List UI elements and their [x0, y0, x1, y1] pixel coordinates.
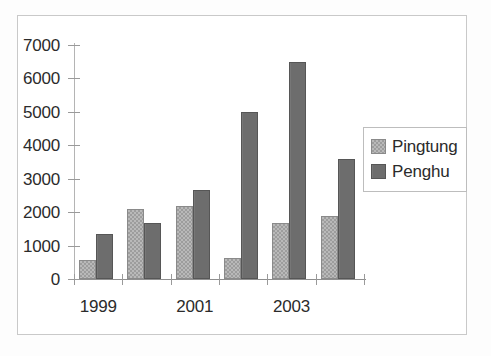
bar-group: [219, 45, 267, 279]
bar-group: [316, 45, 364, 279]
legend-item-penghu[interactable]: Penghu: [371, 159, 459, 184]
bar-pingtung-2000[interactable]: [127, 209, 144, 279]
bar-penghu-2002[interactable]: [241, 112, 258, 279]
y-axis-tick-label: 2000: [0, 204, 60, 221]
bar-pingtung-2003[interactable]: [272, 223, 289, 279]
bar-group: [74, 45, 122, 279]
x-axis-tick-label: 2001: [155, 298, 235, 315]
y-axis-tick-label: 5000: [0, 104, 60, 121]
x-axis-line: [74, 279, 366, 280]
y-axis-tick-label: 7000: [0, 37, 60, 54]
bar-pingtung-2002[interactable]: [224, 258, 241, 279]
bar-penghu-1999[interactable]: [96, 234, 113, 279]
bar-group: [267, 45, 315, 279]
chart-frame: 01000200030004000500060007000 1999200120…: [17, 15, 467, 335]
x-axis-tick-label: 2003: [252, 298, 332, 315]
y-axis-tick-label: 3000: [0, 171, 60, 188]
bar-penghu-2000[interactable]: [144, 223, 161, 279]
bar-group: [122, 45, 170, 279]
bar-pingtung-2004[interactable]: [321, 216, 338, 279]
y-axis-tick-label: 4000: [0, 137, 60, 154]
y-axis-tick-label: 1000: [0, 238, 60, 255]
x-axis-tick: [364, 274, 365, 285]
x-axis-tick-label: 1999: [58, 298, 138, 315]
legend-swatch-icon-pingtung: [371, 139, 386, 154]
bar-pingtung-2001[interactable]: [176, 206, 193, 279]
plot-area: [74, 45, 364, 279]
legend-swatch-icon-penghu: [371, 164, 386, 179]
legend-label-penghu: Penghu: [392, 163, 449, 180]
bar-penghu-2003[interactable]: [289, 62, 306, 279]
legend-label-pingtung: Pingtung: [392, 138, 458, 155]
chart-legend: Pingtung Penghu: [363, 127, 467, 192]
bar-pingtung-1999[interactable]: [79, 260, 96, 279]
bar-group: [171, 45, 219, 279]
bar-penghu-2001[interactable]: [193, 190, 210, 279]
legend-item-pingtung[interactable]: Pingtung: [371, 134, 459, 159]
chart-screenshot: 01000200030004000500060007000 1999200120…: [0, 0, 491, 356]
y-axis-tick-label: 0: [0, 271, 60, 288]
bar-penghu-2004[interactable]: [338, 159, 355, 279]
y-axis-tick-label: 6000: [0, 70, 60, 87]
